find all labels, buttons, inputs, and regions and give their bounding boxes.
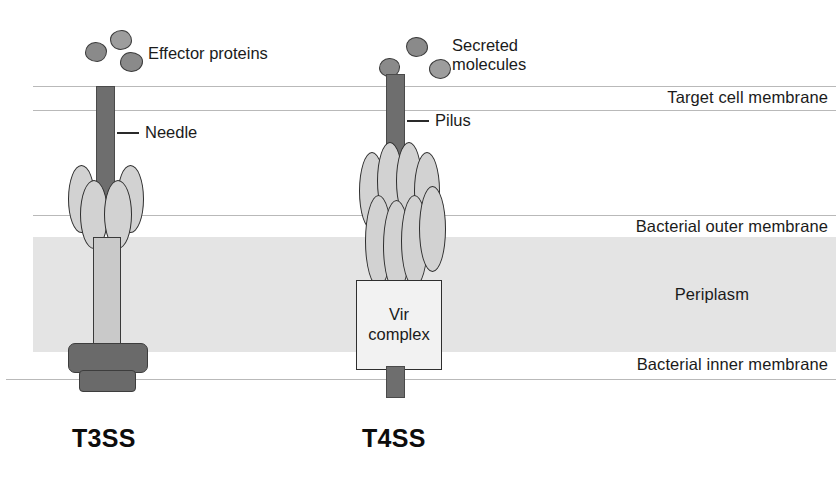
effector-protein-blob-3 <box>120 52 143 72</box>
t4ss-cargo-label-line1: Secreted <box>452 36 572 55</box>
label-target-cell-membrane: Target cell membrane <box>667 88 828 107</box>
t4ss-vir-complex-line1: Vir <box>368 305 429 325</box>
t3ss-base-block-lower <box>79 370 136 392</box>
t3ss-cargo-label: Effector proteins <box>148 44 268 63</box>
secretion-systems-figure: Target cell membrane Bacterial outer mem… <box>0 0 836 479</box>
t4ss-pilus-leader-line <box>407 120 429 122</box>
t3ss-base-block-upper <box>68 343 148 373</box>
t4ss-inner-membrane-stem <box>386 366 405 398</box>
effector-protein-blob-2 <box>110 30 132 50</box>
t4ss-cargo-label-line2: molecules <box>452 55 572 74</box>
t4ss-cargo-label: Secreted molecules <box>452 36 572 75</box>
secreted-molecule-blob-3 <box>429 59 451 79</box>
t4ss-ring-oval-lower-4 <box>419 186 446 272</box>
label-bacterial-inner-membrane: Bacterial inner membrane <box>637 355 828 374</box>
t3ss-needle-label: Needle <box>145 123 197 142</box>
label-periplasm: Periplasm <box>675 285 749 304</box>
t3ss-periplasmic-stem <box>93 237 121 350</box>
t3ss-needle-leader-line <box>117 132 139 134</box>
t3ss-system-name: T3SS <box>72 424 136 453</box>
t4ss-vir-complex-box: Vir complex <box>356 280 442 370</box>
secreted-molecule-blob-2 <box>406 37 428 57</box>
t4ss-system-name: T4SS <box>362 424 426 453</box>
t4ss-vir-complex-line2: complex <box>368 325 429 345</box>
effector-protein-blob-1 <box>85 42 107 62</box>
t4ss-pilus-label: Pilus <box>435 111 471 130</box>
label-bacterial-outer-membrane: Bacterial outer membrane <box>636 217 828 236</box>
target-cell-membrane-line-top <box>33 86 836 87</box>
